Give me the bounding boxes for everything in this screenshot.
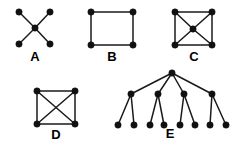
graph-e: E <box>115 70 229 141</box>
graph-edge <box>158 94 164 125</box>
graph-label-c: C <box>189 49 199 64</box>
graph-vertex <box>209 91 215 97</box>
graph-vertex <box>131 122 137 128</box>
graph-label-b: B <box>107 49 116 64</box>
graph-vertex <box>16 41 22 47</box>
graph-vertex <box>190 26 196 32</box>
graph-edge <box>118 94 131 125</box>
graph-vertex <box>147 122 153 128</box>
graph-edge <box>193 12 212 29</box>
graph-vertex <box>192 122 198 128</box>
graph-a: A <box>16 9 53 64</box>
graph-vertex <box>155 91 161 97</box>
graph-vertex <box>172 42 178 48</box>
graph-b: B <box>88 9 136 64</box>
graph-diagram-canvas: ABCDE <box>0 0 241 150</box>
graph-label-d: D <box>51 127 60 142</box>
graph-vertex <box>34 121 40 127</box>
graph-figure-panel: ABCDE <box>0 0 241 150</box>
graph-vertex <box>88 9 94 15</box>
graph-edge <box>212 94 226 125</box>
graph-vertex <box>172 9 178 15</box>
graph-vertex <box>115 122 121 128</box>
graph-vertex <box>181 91 187 97</box>
graph-label-a: A <box>30 49 40 64</box>
graph-d: D <box>34 88 78 142</box>
graph-edge <box>184 94 195 125</box>
graph-vertex <box>169 70 175 76</box>
graph-vertex <box>223 122 229 128</box>
graph-vertex <box>130 9 136 15</box>
graph-edge <box>180 94 184 125</box>
graph-edge <box>131 94 134 125</box>
graph-vertex <box>16 9 22 15</box>
graph-label-e: E <box>166 126 175 141</box>
graph-vertex <box>88 42 94 48</box>
graph-edge <box>150 94 158 125</box>
graph-vertex <box>128 91 134 97</box>
graph-vertex <box>72 88 78 94</box>
graph-vertex <box>130 42 136 48</box>
graph-vertex <box>207 122 213 128</box>
graph-vertex <box>177 122 183 128</box>
graph-vertex <box>72 121 78 127</box>
graph-vertex <box>209 42 215 48</box>
graph-vertex <box>47 41 53 47</box>
graph-vertex <box>47 9 53 15</box>
graph-vertex <box>34 88 40 94</box>
graph-c: C <box>172 9 215 64</box>
graph-vertex <box>209 9 215 15</box>
graph-edge <box>193 29 212 45</box>
graph-edge <box>175 29 193 45</box>
graph-vertex <box>32 25 38 31</box>
graph-edge <box>210 94 212 125</box>
graph-edge <box>175 12 193 29</box>
